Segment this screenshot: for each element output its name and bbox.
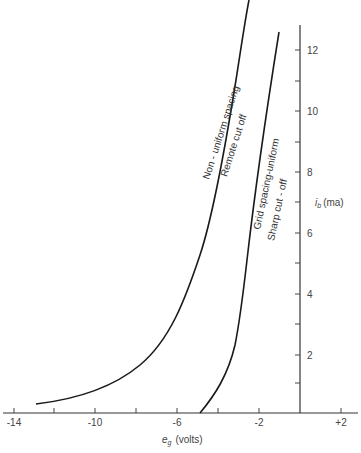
y-tick-label: 6 [307,228,313,239]
y-tick-label: 2 [307,350,313,361]
y-ticks [295,50,300,383]
remote-cutoff-curve [36,0,249,404]
x-tick-label: -6 [173,417,182,428]
x-tick-label: -14 [7,417,22,428]
transfer-characteristic-chart: -14 -10 -6 -2 +2 eg(volts) 2 4 6 8 10 12… [0,0,361,453]
y-tick-label: 4 [307,289,313,300]
y-tick-label: 12 [307,45,319,56]
remote-cutoff-label: Non - uniform spacing Remote cut off [200,84,256,185]
y-tick-label: 10 [307,106,319,117]
y-axis-title: ib(ma) [315,197,344,209]
x-tick-label: -2 [255,417,264,428]
y-tick-label: 8 [307,167,313,178]
x-ticks [14,408,341,413]
x-tick-label: +2 [335,417,347,428]
x-axis-title: eg(volts) [162,434,203,447]
x-tick-label: -10 [88,417,103,428]
sharp-cutoff-label: Grid spacing-uniform Sharp cut - off [250,137,297,241]
